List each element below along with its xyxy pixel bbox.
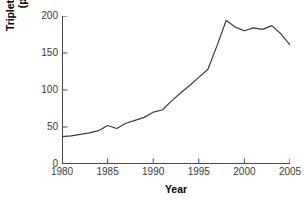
- x-tick-label: 1990: [133, 167, 173, 177]
- x-axis-tick-marks: [62, 159, 290, 164]
- x-tick-label: 1980: [42, 167, 82, 177]
- x-axis-title: Year: [62, 183, 290, 195]
- y-tick-label: 100: [32, 85, 58, 95]
- y-axis-title-line-2: (per 100,000 live births): [17, 0, 29, 8]
- y-axis-tick-marks: [63, 16, 68, 164]
- axis-lines: [62, 16, 290, 164]
- x-tick-label: 2000: [224, 167, 264, 177]
- x-tick-label: 1995: [179, 167, 219, 177]
- chart-figure: Triplet and higher multiple births (per …: [0, 0, 308, 204]
- y-tick-label: 50: [32, 122, 58, 132]
- plot-area: [62, 16, 290, 164]
- y-tick-label: 200: [32, 11, 58, 21]
- y-axis-title: Triplet and higher multiple births (per …: [0, 0, 34, 34]
- data-line-series-0: [62, 20, 290, 136]
- x-tick-label: 2005: [270, 167, 308, 177]
- x-tick-label: 1985: [88, 167, 128, 177]
- y-tick-label: 150: [32, 48, 58, 58]
- y-tick-label: 0: [32, 159, 58, 169]
